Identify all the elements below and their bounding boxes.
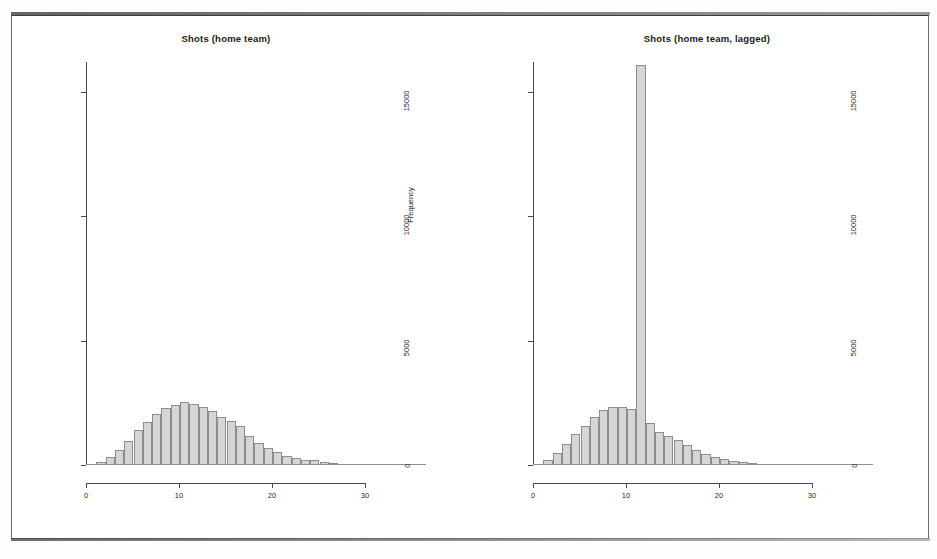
histogram-bar (208, 411, 217, 465)
y-axis-label-wrap-right: Frequency (403, 150, 417, 260)
y-tick-label-right-15000: 15000 (850, 90, 859, 111)
y-axis-label-right: Frequency (406, 187, 415, 222)
x-tick-label-right-0: 0 (531, 491, 535, 500)
histogram-bar (152, 414, 161, 465)
histogram-bar (581, 426, 590, 465)
x-tick-left-20 (272, 483, 273, 488)
x-tick-left-0 (86, 483, 87, 488)
y-tick-label-right-0: 0 (850, 464, 859, 468)
baseline-right (533, 464, 873, 465)
x-axis-left (86, 483, 365, 484)
histogram-bar (124, 441, 133, 465)
x-tick-label-right-20: 20 (715, 491, 723, 500)
x-tick-label-left-0: 0 (84, 491, 88, 500)
histogram-bar (664, 436, 673, 465)
histogram-bar (171, 405, 180, 465)
histogram-bar (236, 426, 245, 465)
y-tick-label-right-10000: 10000 (850, 215, 859, 236)
x-tick-right-30 (812, 483, 813, 488)
x-tick-label-right-10: 10 (622, 491, 630, 500)
plot-area-right: 050001000015000 (533, 62, 863, 465)
histogram-bar (227, 421, 236, 465)
y-tick-label-left-5000: 5000 (403, 339, 412, 356)
x-tick-left-10 (179, 483, 180, 488)
histogram-bar (199, 407, 208, 465)
baseline-left (86, 464, 426, 465)
histogram-bar (636, 65, 645, 466)
histogram-bar (590, 417, 599, 465)
x-tick-label-right-30: 30 (808, 491, 816, 500)
histogram-bar (189, 404, 198, 465)
x-tick-label-left-30: 30 (361, 491, 369, 500)
figure-page: Shots (home team) Frequency 050001000015… (0, 0, 937, 559)
histogram-bar (683, 445, 692, 465)
histogram-bar (143, 422, 152, 465)
histogram-bar (115, 450, 124, 465)
histogram-bar (571, 434, 580, 465)
histogram-bar (254, 443, 263, 465)
histogram-bar (264, 448, 273, 465)
histogram-panel-shots-home-team: Shots (home team) Frequency 050001000015… (0, 0, 468, 559)
histogram-panel-shots-home-team-lagged: Shots (home team, lagged) Frequency 0500… (447, 0, 915, 559)
y-tick-left-0 (81, 465, 86, 466)
histogram-bar (180, 402, 189, 465)
histogram-bar (217, 417, 226, 465)
x-tick-right-10 (626, 483, 627, 488)
y-tick-left-5000 (81, 341, 86, 342)
plot-area-left: 050001000015000 (86, 62, 416, 465)
histogram-bar (245, 436, 254, 465)
histogram-bar (599, 410, 608, 465)
histogram-bar (161, 408, 170, 465)
panel-title-right: Shots (home team, lagged) (473, 33, 937, 44)
histogram-bar (134, 430, 143, 465)
x-tick-label-left-10: 10 (175, 491, 183, 500)
histogram-bar (608, 407, 617, 465)
x-tick-right-20 (719, 483, 720, 488)
y-tick-label-right-5000: 5000 (850, 339, 859, 356)
histogram-bar (618, 407, 627, 465)
y-tick-label-left-0: 0 (403, 464, 412, 468)
x-tick-label-left-20: 20 (268, 491, 276, 500)
histogram-bars-right (534, 62, 863, 465)
x-tick-left-30 (365, 483, 366, 488)
y-tick-right-15000 (528, 92, 533, 93)
y-tick-left-10000 (81, 216, 86, 217)
x-tick-right-0 (533, 483, 534, 488)
histogram-bar (562, 444, 571, 465)
histogram-bar (674, 440, 683, 465)
y-tick-right-10000 (528, 216, 533, 217)
panel-title-left: Shots (home team) (0, 33, 460, 44)
histogram-bar (655, 432, 664, 465)
y-tick-left-15000 (81, 92, 86, 93)
x-axis-right (533, 483, 812, 484)
histogram-bar (646, 423, 655, 465)
histogram-bar (692, 450, 701, 465)
y-tick-label-left-15000: 15000 (403, 90, 412, 111)
histogram-bars-left (87, 62, 416, 465)
histogram-bar (627, 409, 636, 465)
y-tick-right-0 (528, 465, 533, 466)
y-tick-right-5000 (528, 341, 533, 342)
